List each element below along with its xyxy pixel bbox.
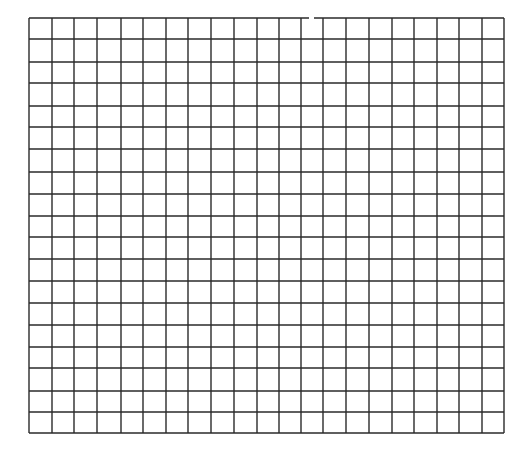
top-border-gap: [309, 17, 314, 20]
blank-grid: [0, 0, 523, 449]
background: [0, 0, 523, 449]
